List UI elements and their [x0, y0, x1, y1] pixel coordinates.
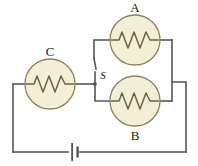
wire-right-outer-vertical — [172, 82, 186, 152]
lamp-c: C — [25, 44, 75, 109]
wire-switch-blade — [94, 58, 96, 69]
switch-s-label: S — [100, 69, 106, 81]
lamp-b-label: B — [131, 128, 140, 143]
battery-cell-icon — [71, 143, 79, 161]
lamp-c-label: C — [46, 44, 55, 59]
lamp-a-label: A — [130, 0, 140, 15]
lamp-a: A — [110, 0, 160, 65]
lamp-b: B — [110, 76, 160, 143]
wire-a-branch-left — [94, 40, 110, 58]
junction-dot-switch-node — [93, 82, 97, 86]
battery-long-plate — [71, 143, 73, 161]
circuit-diagram-figure: A B C S — [0, 0, 198, 166]
battery-short-plate — [76, 147, 78, 158]
circuit-schematic-canvas: A B C S — [0, 0, 198, 166]
wire-b-branch-left — [95, 84, 110, 101]
